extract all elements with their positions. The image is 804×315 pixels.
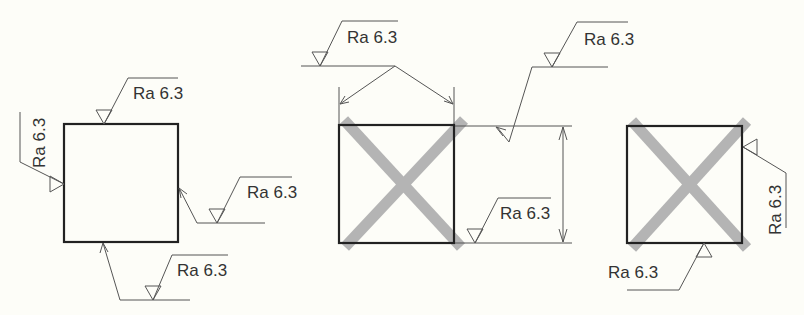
roughness-label: Ra 6.3 xyxy=(766,185,785,235)
roughness-triangle-icon xyxy=(696,243,712,257)
roughness-label: Ra 6.3 xyxy=(247,183,297,202)
roughness-label: Ra 6.3 xyxy=(133,84,183,103)
roughness-symbol-top-common: Ra 6.3 xyxy=(301,21,453,104)
roughness-label: Ra 6.3 xyxy=(608,263,658,282)
roughness-symbol-top: Ra 6.3 xyxy=(96,78,183,124)
roughness-symbol-bottom: Ra 6.3 xyxy=(608,243,712,290)
roughness-triangle-icon xyxy=(743,139,757,155)
roughness-symbol-bottom: Ra 6.3 xyxy=(100,243,228,300)
roughness-label: Ra 6.3 xyxy=(347,28,397,47)
roughness-symbol-right: Ra 6.3 xyxy=(743,139,786,235)
roughness-label: Ra 6.3 xyxy=(500,204,550,223)
roughness-symbol-dimension: Ra 6.3 xyxy=(467,198,551,243)
roughness-label: Ra 6.3 xyxy=(584,30,634,49)
roughness-symbol-right: Ra 6.3 xyxy=(179,177,297,223)
roughness-symbol-extension: Ra 6.3 xyxy=(496,22,634,142)
roughness-triangle-icon xyxy=(96,110,112,124)
dimension-line xyxy=(559,127,567,242)
plain-square-outline xyxy=(64,124,178,242)
roughness-label: Ra 6.3 xyxy=(30,118,49,168)
figure-1: Ra 6.3 Ra 6.3 Ra 6.3 Ra 6.3 xyxy=(20,78,297,300)
roughness-symbol-left: Ra 6.3 xyxy=(20,112,64,192)
figure-3: Ra 6.3 Ra 6.3 xyxy=(608,121,786,290)
figure-2: Ra 6.3 Ra 6.3 Ra 6.3 xyxy=(301,21,634,247)
roughness-triangle-icon xyxy=(544,53,560,67)
roughness-triangle-icon xyxy=(145,286,161,300)
roughness-diagram: Ra 6.3 Ra 6.3 Ra 6.3 Ra 6.3 xyxy=(0,0,804,315)
roughness-label: Ra 6.3 xyxy=(177,261,227,280)
